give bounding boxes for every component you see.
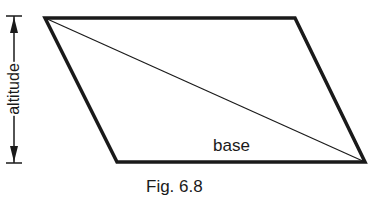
altitude-label: altitude bbox=[6, 62, 22, 116]
diagonal-line bbox=[45, 18, 365, 162]
arrow-down-icon bbox=[10, 146, 18, 162]
arrow-up-icon bbox=[10, 17, 18, 33]
figure-caption: Fig. 6.8 bbox=[146, 178, 203, 196]
parallelogram-diagram bbox=[0, 0, 370, 203]
base-label: base bbox=[213, 137, 250, 155]
